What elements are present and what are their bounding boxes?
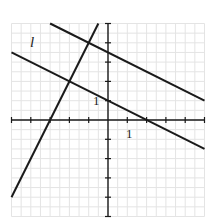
- y-unit-label: 1: [93, 93, 100, 108]
- x-unit-label: 1: [126, 126, 133, 141]
- coordinate-plane: l 1 1: [0, 0, 208, 224]
- line-l-label: l: [30, 34, 34, 50]
